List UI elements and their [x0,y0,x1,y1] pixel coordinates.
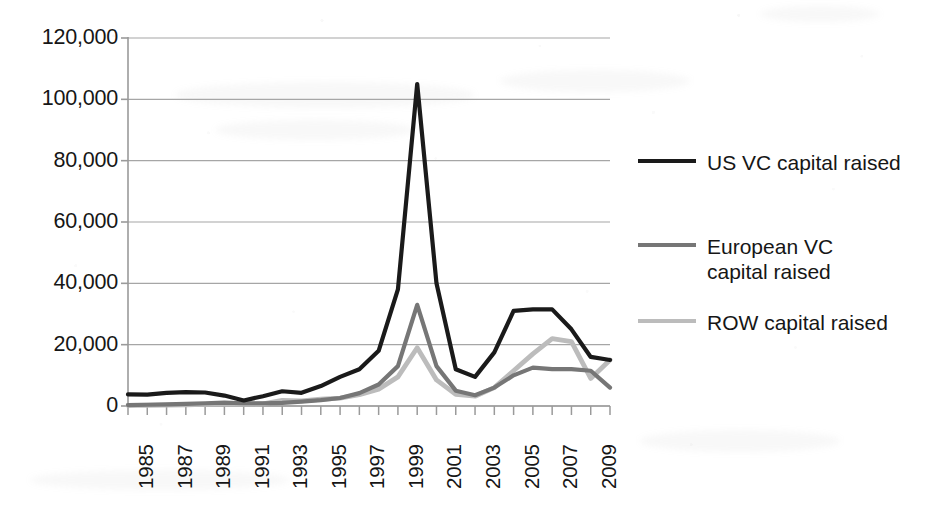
legend-label: European VC capital raised [707,234,833,284]
x-axis-tick-label: 1997 [367,444,388,489]
legend-color-swatch [638,319,696,324]
x-axis-tick-label: 2005 [522,444,543,489]
x-axis-tick-label: 1989 [213,444,234,489]
legend-entry[interactable]: ROW capital raised [638,310,888,335]
chart-container: 120,000100,00080,00060,00040,00020,0000 … [0,0,947,511]
legend-entry[interactable]: European VC capital raised [638,234,833,284]
legend-entry[interactable]: US VC capital raised [638,150,901,175]
x-axis-tick-label: 2009 [599,444,620,489]
x-axis-tick-label: 1993 [290,444,311,489]
x-axis-tick-label: 1987 [175,444,196,489]
legend-color-swatch [638,159,696,163]
legend-label: ROW capital raised [707,310,888,335]
x-axis-tick-label: 1985 [136,444,157,489]
x-axis-tick-label: 2003 [483,444,504,489]
x-axis-tick-label: 1991 [252,444,273,489]
x-axis-tick-label: 2007 [560,444,581,489]
legend-label: US VC capital raised [707,150,901,175]
x-axis-tick-label: 1995 [329,444,350,489]
x-axis-tick-label: 2001 [444,444,465,489]
x-axis-tick-label: 1999 [406,444,427,489]
legend-color-swatch [638,243,696,247]
